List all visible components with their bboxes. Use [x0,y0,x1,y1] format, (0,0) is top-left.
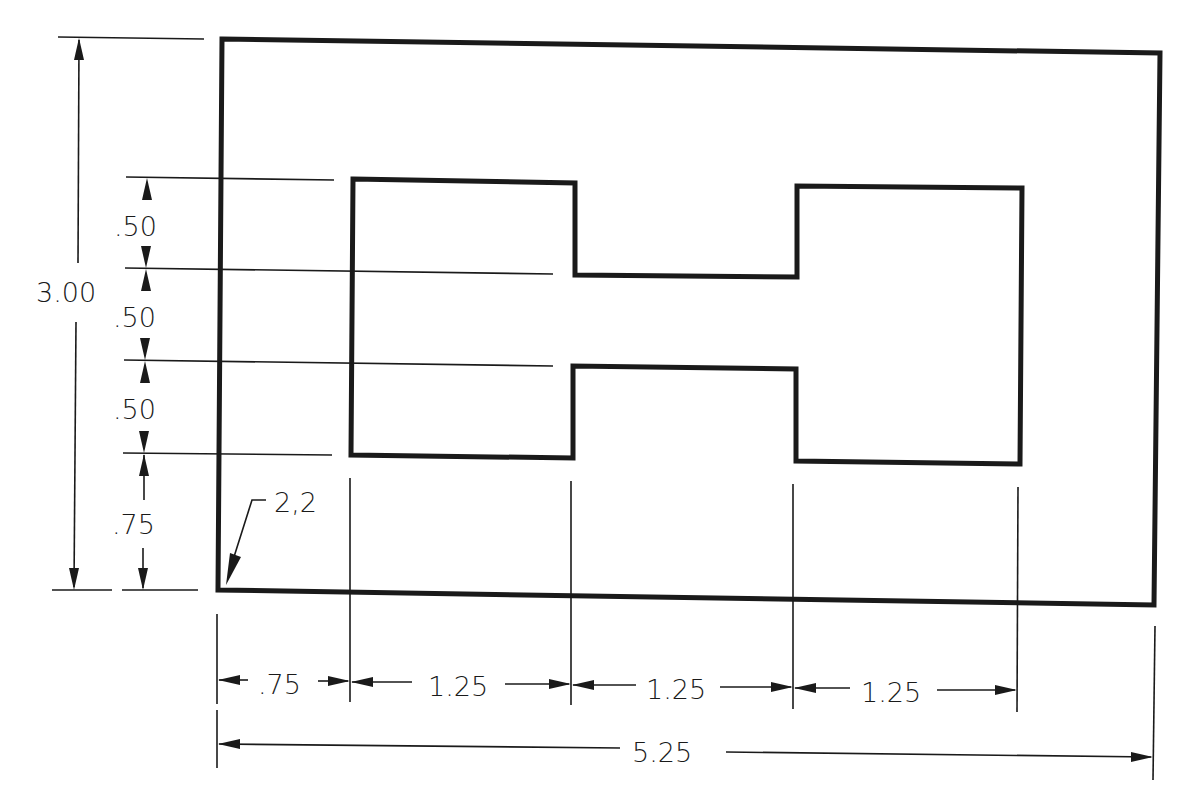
arrow-left-icon [572,680,594,690]
origin-leader-line [233,500,266,560]
arrow-down-icon [69,568,79,590]
arrow-left-icon [218,739,240,749]
ext-line-y3 [124,360,553,366]
dim-label-1-25-a: 1.25 [428,671,488,702]
dim-label-0-50-c: .50 [113,394,156,425]
arrow-right-icon [1131,752,1153,762]
arrow-left-icon [351,677,373,687]
arrow-down-icon [139,431,149,453]
dim-label-1-25-b: 1.25 [646,674,706,705]
dim-label-3-00: 3.00 [36,277,96,308]
h-shape-cutout [351,179,1022,464]
arrow-down-icon [140,338,150,360]
arrow-up-icon [141,269,151,291]
arrow-left-icon [794,683,816,693]
dim-label-0-75-vertical: .75 [112,509,155,540]
ext-line-x5 [1153,626,1155,780]
arrow-up-icon [139,454,149,476]
dim-label-0-50-b: .50 [113,302,156,333]
origin-label: 2,2 [274,487,317,518]
arrow-down-icon [141,246,151,268]
arrow-right-icon [995,685,1017,695]
arrow-up-icon [142,178,152,200]
arrow-up-icon [74,38,84,60]
arrow-up-icon [140,361,150,383]
dim-label-5-25: 5.25 [632,737,692,768]
arrow-right-icon [771,682,793,692]
arrow-left-icon [218,675,240,685]
dim-label-1-25-c: 1.25 [861,677,921,708]
arrow-right-icon [549,679,571,689]
origin-arrow-icon [226,553,241,585]
ext-line-top [58,37,204,39]
dim-line-3-00-lower [74,322,76,587]
dim-label-0-75-horizontal: .75 [258,669,301,700]
ext-line-x4 [1017,487,1018,712]
ext-line-y4 [123,453,332,455]
dim-line-5-25-left [219,744,620,748]
ext-line-y1 [126,177,334,180]
dim-line-5-25-right [726,752,1151,757]
arrow-down-icon [138,568,148,590]
dimensioned-drawing: 3.00 .50 .50 .50 .75 2,2 .75 1.25 1.25 [0,0,1200,811]
ext-line-y2 [125,268,553,274]
arrow-right-icon [328,676,350,686]
dim-line-3-00-upper [78,40,79,263]
dim-label-0-50-a: .50 [114,211,157,242]
